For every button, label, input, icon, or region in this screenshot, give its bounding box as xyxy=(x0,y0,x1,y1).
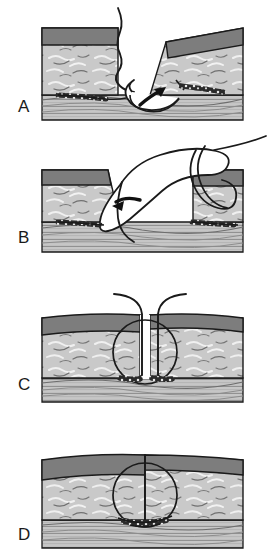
panel-a-left-wound-edge xyxy=(42,28,118,95)
tissue-bite-c-left xyxy=(120,378,140,379)
panel-d-right-wound-edge xyxy=(145,455,243,520)
panel-label-d: D xyxy=(18,525,30,544)
epidermis-left-a xyxy=(42,28,118,45)
panel-d-left-wound-edge xyxy=(42,455,145,520)
panel-c-right-wound-edge xyxy=(150,314,243,378)
panel-d: D xyxy=(18,455,243,548)
panel-label-a: A xyxy=(18,97,30,116)
epidermis-left-b xyxy=(42,170,111,185)
panel-label-c: C xyxy=(18,375,30,394)
panel-c-subcutaneous xyxy=(42,378,243,402)
panel-label-b: B xyxy=(18,228,29,247)
tissue-bite-c-right xyxy=(152,378,172,379)
suture-technique-figure: A xyxy=(0,0,278,559)
panel-b-subcutaneous xyxy=(42,222,243,252)
epidermis-left-c xyxy=(42,314,140,335)
panel-c-left-wound-edge xyxy=(42,314,140,378)
